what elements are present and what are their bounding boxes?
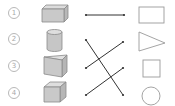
connection-4-square xyxy=(86,68,123,95)
rectangular-prism-icon xyxy=(42,5,68,22)
diagram-canvas xyxy=(0,0,175,106)
square-shape-icon xyxy=(143,60,160,77)
triangle-shape-icon xyxy=(139,32,165,51)
rectangle-shape-icon xyxy=(139,7,164,23)
cube-icon xyxy=(44,82,66,102)
cylinder-icon xyxy=(47,30,62,52)
connection-3-triangle xyxy=(86,42,123,68)
connection-2-circle xyxy=(86,40,123,95)
triangular-prism-icon xyxy=(44,55,67,77)
connection-lines xyxy=(86,15,124,95)
circle-shape-icon xyxy=(142,87,160,105)
